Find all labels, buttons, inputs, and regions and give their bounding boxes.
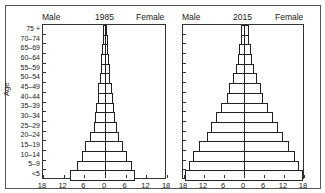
x-tick-label: 12	[137, 181, 153, 190]
x-tick-label: 6	[75, 181, 91, 190]
y-tick	[43, 169, 46, 170]
pyramid-1985	[42, 24, 166, 179]
x-tick	[105, 175, 106, 178]
y-tick	[43, 131, 46, 132]
x-tick-label: 18	[175, 181, 191, 190]
y-tick	[43, 160, 46, 161]
y-tick	[43, 140, 46, 141]
x-tick	[204, 175, 205, 178]
age-group-label: 45–49	[14, 83, 40, 91]
y-tick	[183, 121, 186, 122]
y-tick	[43, 82, 46, 83]
y-tick	[183, 43, 186, 44]
y-tick	[43, 63, 46, 64]
y-tick	[43, 72, 46, 73]
age-group-label: 75 +	[14, 25, 40, 33]
age-group-label: 50–54	[14, 73, 40, 81]
x-tick	[264, 175, 265, 178]
y-tick	[183, 140, 186, 141]
x-tick-label: 12	[195, 181, 211, 190]
y-tick	[183, 131, 186, 132]
y-tick	[43, 92, 46, 93]
x-tick	[244, 175, 245, 178]
y-tick	[183, 53, 186, 54]
x-tick	[224, 175, 225, 178]
age-group-label: 40–44	[14, 93, 40, 101]
x-tick	[84, 175, 85, 178]
panel-1985-male-label: Male	[42, 12, 60, 22]
y-tick	[183, 111, 186, 112]
age-group-label: 55–59	[14, 64, 40, 72]
age-group-label: 35–39	[14, 102, 40, 110]
y-tick	[183, 150, 186, 151]
age-group-label: 15–19	[14, 141, 40, 149]
x-tick	[64, 175, 65, 178]
center-axis-line	[105, 25, 106, 178]
x-tick	[184, 175, 185, 178]
y-tick	[183, 34, 186, 35]
x-tick-label: 6	[215, 181, 231, 190]
y-tick	[183, 82, 186, 83]
y-tick	[43, 53, 46, 54]
panel-2015-title: 2015	[233, 12, 252, 22]
age-group-label: 10–14	[14, 151, 40, 159]
x-tick-label: 0	[96, 181, 112, 190]
y-tick	[183, 102, 186, 103]
y-tick	[183, 63, 186, 64]
y-tick	[43, 102, 46, 103]
x-tick-label: 12	[275, 181, 291, 190]
x-tick-label: 18	[34, 181, 50, 190]
y-tick	[43, 121, 46, 122]
y-tick	[43, 150, 46, 151]
x-tick-label: 6	[117, 181, 133, 190]
x-tick	[126, 175, 127, 178]
x-tick-label: 0	[235, 181, 251, 190]
x-tick	[304, 175, 305, 178]
pyramid-2015	[182, 24, 304, 179]
x-tick	[43, 175, 44, 178]
age-group-label: <5	[14, 170, 40, 178]
age-group-label: 5–9	[14, 160, 40, 168]
age-group-label: 65–69	[14, 44, 40, 52]
x-tick	[167, 175, 168, 178]
age-group-label: 20–24	[14, 131, 40, 139]
age-group-label: 30–34	[14, 112, 40, 120]
y-tick	[43, 34, 46, 35]
x-tick-label: 6	[255, 181, 271, 190]
x-tick-label: 18	[158, 181, 174, 190]
panel-2015-male-label: Male	[182, 12, 200, 22]
x-tick	[146, 175, 147, 178]
y-tick	[183, 92, 186, 93]
x-tick-label: 18	[295, 181, 311, 190]
y-tick	[43, 111, 46, 112]
y-tick	[183, 160, 186, 161]
panel-1985-female-label: Female	[136, 12, 164, 22]
y-axis-title: Age	[2, 83, 11, 96]
x-tick	[284, 175, 285, 178]
age-group-label: 25–29	[14, 122, 40, 130]
center-axis-line	[244, 25, 245, 178]
panel-1985-title: 1985	[95, 12, 114, 22]
x-tick-label: 12	[55, 181, 71, 190]
age-group-label: 60–64	[14, 54, 40, 62]
age-group-label: 70–74	[14, 35, 40, 43]
y-tick	[43, 43, 46, 44]
y-tick	[183, 72, 186, 73]
panel-2015-female-label: Female	[275, 12, 303, 22]
